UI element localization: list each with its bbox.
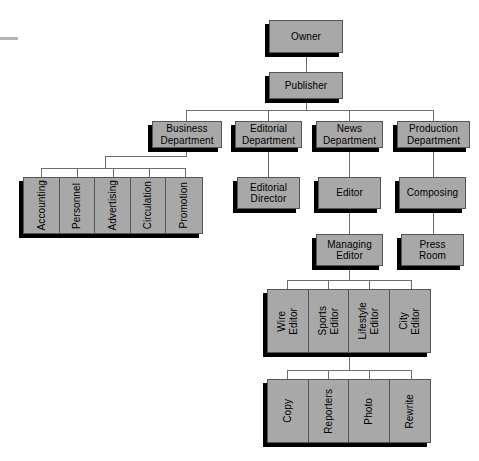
connector-newsroom-rewrite [411, 370, 412, 379]
connector-publisher-drop [306, 99, 307, 110]
group-cell-label: Advertising [107, 180, 119, 231]
node-editorial-department-label: Editorial Department [240, 123, 297, 146]
connector-drop-editorial [268, 110, 269, 121]
group-cell[interactable]: Advertising [95, 178, 131, 233]
group-cell[interactable]: Rewrite [390, 380, 431, 442]
connector-news-editor [349, 148, 350, 177]
node-news-department-label: News Department [321, 123, 378, 146]
group-cell[interactable]: Circulation [131, 178, 167, 233]
node-publisher-label: Publisher [283, 80, 330, 92]
node-editorial-director[interactable]: Editorial Director [237, 177, 300, 209]
group-cell-label: Sports Editor [317, 306, 340, 336]
stray-mark [0, 37, 18, 40]
connector-unit-accounting [41, 168, 42, 177]
connector-owner-publisher [306, 53, 307, 72]
editor-units-group: Wire EditorSports EditorLifestyle Editor… [267, 289, 431, 353]
node-owner-label: Owner [289, 31, 323, 43]
connector-business-elbow [105, 156, 106, 168]
connector-newsroom-reporters [328, 370, 329, 379]
connector-newsroom-photo [369, 370, 370, 379]
node-editor-label: Editor [334, 187, 365, 199]
group-cell-label: City Editor [398, 308, 421, 335]
connector-unit-promotion [185, 168, 186, 177]
connector-newsroom-copy [287, 370, 288, 379]
group-cell-label: Copy [282, 399, 294, 423]
group-cell[interactable]: Photo [349, 380, 390, 442]
connector-unit-advertising [113, 168, 114, 177]
group-cell-label: Circulation [142, 181, 154, 229]
node-business-department[interactable]: Business Department [152, 121, 222, 148]
connector-business-link [105, 156, 187, 157]
node-managing-editor[interactable]: Managing Editor [316, 234, 383, 266]
group-cell[interactable]: Wire Editor [268, 290, 309, 352]
connector-editor-lifestyle [369, 280, 370, 289]
node-press-room-label: Press Room [417, 239, 448, 262]
connector-drop-business [186, 110, 187, 121]
group-cell[interactable]: Accounting [24, 178, 60, 233]
newsroom-units-group: CopyReportersPhotoRewrite [267, 379, 431, 443]
group-cell-label: Reporters [323, 389, 335, 434]
node-production-department[interactable]: Production Department [397, 121, 470, 148]
group-cell-label: Rewrite [404, 394, 416, 429]
connector-editors-bus [287, 280, 411, 281]
node-composing-label: Composing [405, 187, 460, 199]
connector-composing-pressroom [433, 209, 434, 234]
group-cell[interactable]: City Editor [390, 290, 431, 352]
group-cell-label: Photo [363, 398, 375, 425]
group-cell[interactable]: Reporters [309, 380, 350, 442]
connector-unit-circulation [149, 168, 150, 177]
group-cell[interactable]: Lifestyle Editor [349, 290, 390, 352]
group-cell-label: Lifestyle Editor [357, 302, 380, 340]
connector-editor-managing [349, 209, 350, 234]
group-cell[interactable]: Sports Editor [309, 290, 350, 352]
connector-newsroom-bus [287, 370, 411, 371]
connector-production-composing [433, 148, 434, 177]
node-editor[interactable]: Editor [318, 177, 381, 209]
org-chart: Owner Publisher Business Department Edit… [0, 0, 479, 461]
group-cell-label: Promotion [178, 182, 190, 228]
business-units-group: AccountingPersonnelAdvertisingCirculatio… [23, 177, 203, 234]
group-cell[interactable]: Promotion [166, 178, 202, 233]
node-business-department-label: Business Department [158, 123, 215, 146]
node-news-department[interactable]: News Department [316, 121, 383, 148]
connector-unit-personnel [77, 168, 78, 177]
connector-business-drop [186, 148, 187, 156]
connector-editor-wire [287, 280, 288, 289]
group-cell[interactable]: Personnel [60, 178, 96, 233]
connector-drop-news [349, 110, 350, 121]
connector-department-bus [186, 110, 433, 111]
connector-editor-city [411, 280, 412, 289]
node-managing-editor-label: Managing Editor [325, 239, 374, 262]
node-editorial-director-label: Editorial Director [248, 182, 289, 205]
connector-drop-production [433, 110, 434, 121]
node-composing[interactable]: Composing [399, 177, 466, 209]
connector-editorial-director [268, 148, 269, 177]
connector-managing-drop [349, 266, 350, 280]
group-cell[interactable]: Copy [268, 380, 309, 442]
group-cell-label: Wire Editor [276, 308, 299, 335]
node-publisher[interactable]: Publisher [269, 72, 343, 99]
node-press-room[interactable]: Press Room [401, 234, 464, 266]
connector-editor-sports [328, 280, 329, 289]
group-cell-label: Accounting [36, 180, 48, 230]
group-cell-label: Personnel [71, 183, 83, 229]
node-editorial-department[interactable]: Editorial Department [235, 121, 302, 148]
node-owner[interactable]: Owner [269, 20, 343, 53]
node-production-department-label: Production Department [405, 123, 462, 146]
connector-editors-down [349, 353, 350, 370]
